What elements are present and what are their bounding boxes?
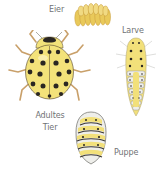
pupa-icon — [72, 110, 110, 166]
larva-icon — [112, 36, 160, 118]
label-adult-line2: Tier — [34, 123, 66, 132]
label-adult: Adultes Tier — [34, 111, 66, 132]
pupa-illustration — [72, 110, 110, 166]
ladybird-icon — [6, 30, 94, 104]
label-adult-line1: Adultes — [34, 111, 66, 120]
larva-illustration — [112, 36, 160, 118]
label-larva: Larve — [122, 26, 144, 35]
label-pupa: Puppe — [114, 148, 138, 157]
egg-cluster-icon — [72, 2, 112, 29]
label-eggs: Eier — [49, 5, 64, 14]
adult-illustration — [6, 30, 94, 104]
eggs-illustration — [72, 2, 112, 29]
